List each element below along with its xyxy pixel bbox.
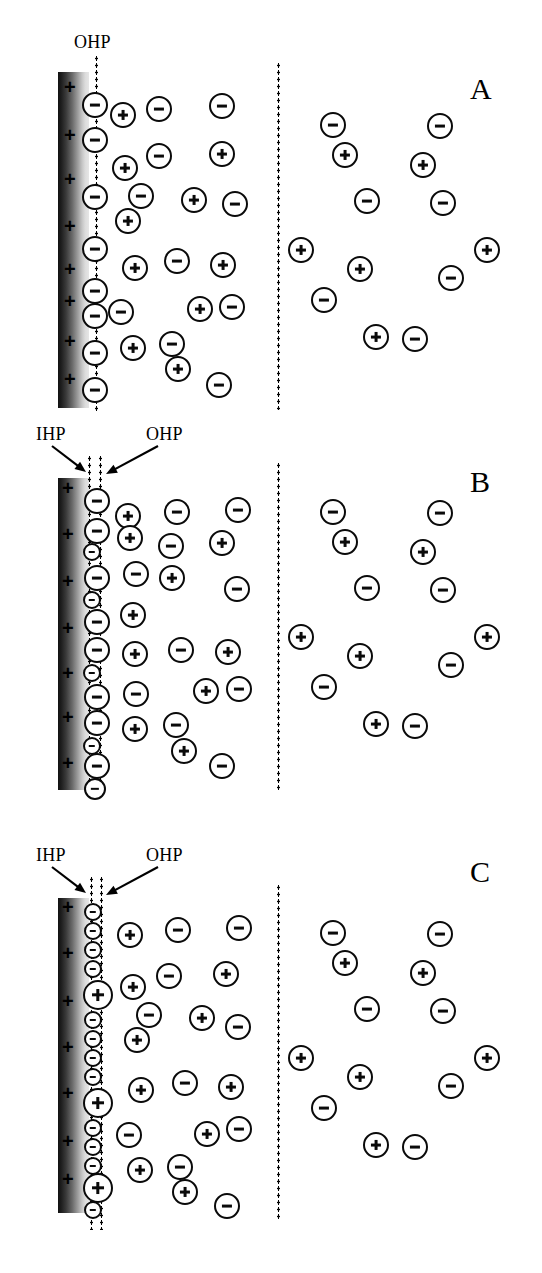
annotation-ohp-C: OHP — [146, 845, 183, 866]
ion-neg-bulk-C — [320, 920, 346, 946]
ion-pos-bulk-C — [474, 1045, 500, 1071]
ion-neg-diffuse-C — [116, 1122, 142, 1148]
ion-pos-compact-C — [83, 1173, 113, 1203]
ion-pos-diffuse-C — [127, 1157, 153, 1183]
ion-neg-compact-C — [84, 922, 102, 940]
ion-neg-compact-C — [84, 1201, 102, 1219]
ion-neg-bulk-C — [354, 996, 380, 1022]
ion-pos-diffuse-C — [194, 1121, 220, 1147]
ion-neg-diffuse-C — [225, 1014, 251, 1040]
surface-charge-C: + — [62, 943, 74, 963]
ion-neg-bulk-C — [438, 1073, 464, 1099]
ion-pos-diffuse-C — [120, 974, 146, 1000]
ion-pos-diffuse-C — [218, 1074, 244, 1100]
ion-neg-compact-C — [84, 1138, 102, 1156]
ion-neg-bulk-C — [430, 998, 456, 1024]
panel-label-C: C — [470, 855, 490, 889]
ion-neg-compact-C — [84, 1011, 102, 1029]
ion-neg-compact-C — [84, 1068, 102, 1086]
ion-pos-diffuse-C — [213, 961, 239, 987]
surface-charge-C: + — [62, 897, 74, 917]
ion-neg-diffuse-C — [136, 1002, 162, 1028]
ion-neg-diffuse-C — [226, 915, 252, 941]
surface-charge-C: + — [62, 1131, 74, 1151]
ion-pos-diffuse-C — [172, 1179, 198, 1205]
ion-pos-diffuse-C — [189, 1005, 215, 1031]
ion-pos-bulk-C — [332, 950, 358, 976]
ion-pos-bulk-C — [288, 1045, 314, 1071]
ion-neg-diffuse-C — [214, 1193, 240, 1219]
surface-charge-C: + — [62, 1083, 74, 1103]
ion-neg-compact-C — [84, 1030, 102, 1048]
ion-neg-compact-C — [84, 941, 102, 959]
figure-canvas: ++++++++OHPA+++++++IHPOHPB+++++++IHPOHPC — [0, 0, 542, 1273]
ion-neg-bulk-C — [427, 921, 453, 947]
surface-charge-C: + — [62, 1169, 74, 1189]
ion-neg-compact-C — [84, 1049, 102, 1067]
ion-neg-diffuse-C — [172, 1070, 198, 1096]
ion-neg-compact-C — [84, 960, 102, 978]
bulk-boundary-C — [277, 884, 280, 1220]
panel-C: +++++++IHPOHPC — [0, 0, 542, 1273]
ion-neg-bulk-C — [311, 1095, 337, 1121]
surface-charge-C: + — [62, 1037, 74, 1057]
surface-charge-C: + — [62, 991, 74, 1011]
ion-pos-diffuse-C — [117, 922, 143, 948]
ion-neg-compact-C — [84, 1119, 102, 1137]
annotation-ihp-C: IHP — [36, 845, 66, 866]
ion-neg-diffuse-C — [156, 963, 182, 989]
ion-pos-bulk-C — [347, 1064, 373, 1090]
ion-neg-diffuse-C — [165, 917, 191, 943]
ion-pos-compact-C — [83, 1088, 113, 1118]
ion-pos-diffuse-C — [124, 1027, 150, 1053]
ion-pos-compact-C — [83, 980, 113, 1010]
ion-neg-diffuse-C — [167, 1154, 193, 1180]
ion-neg-bulk-C — [402, 1134, 428, 1160]
ion-neg-compact-C — [84, 903, 102, 921]
ion-neg-diffuse-C — [226, 1116, 252, 1142]
ion-pos-diffuse-C — [128, 1077, 154, 1103]
ion-pos-bulk-C — [410, 960, 436, 986]
ion-pos-bulk-C — [363, 1132, 389, 1158]
